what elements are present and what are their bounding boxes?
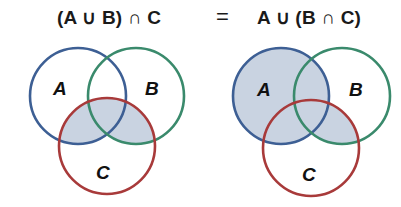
label-C-left: C bbox=[96, 162, 110, 183]
label-A-left: A bbox=[52, 78, 67, 99]
label-B-left: B bbox=[145, 78, 159, 99]
venn-left: A B C bbox=[30, 48, 184, 194]
label-B-right: B bbox=[349, 79, 363, 100]
venn-right: A B C bbox=[233, 48, 390, 196]
label-A-right: A bbox=[256, 79, 271, 100]
venn-diagrams: A B C A B C bbox=[0, 0, 401, 207]
label-C-right: C bbox=[302, 164, 316, 185]
